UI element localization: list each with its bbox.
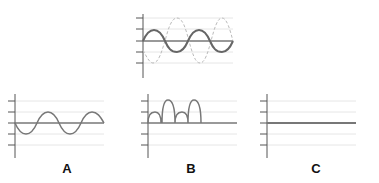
top-axis	[136, 14, 143, 78]
label-b: B	[186, 162, 195, 175]
label-c: C	[311, 162, 320, 175]
diagram-canvas	[0, 0, 379, 183]
panel-a	[8, 94, 104, 158]
label-a: A	[62, 162, 71, 175]
top-panel	[136, 14, 233, 78]
c-axis	[260, 94, 267, 158]
b-axis	[141, 94, 148, 158]
panel-c	[260, 94, 356, 158]
panel-b	[141, 94, 237, 158]
a-axis	[8, 94, 15, 158]
